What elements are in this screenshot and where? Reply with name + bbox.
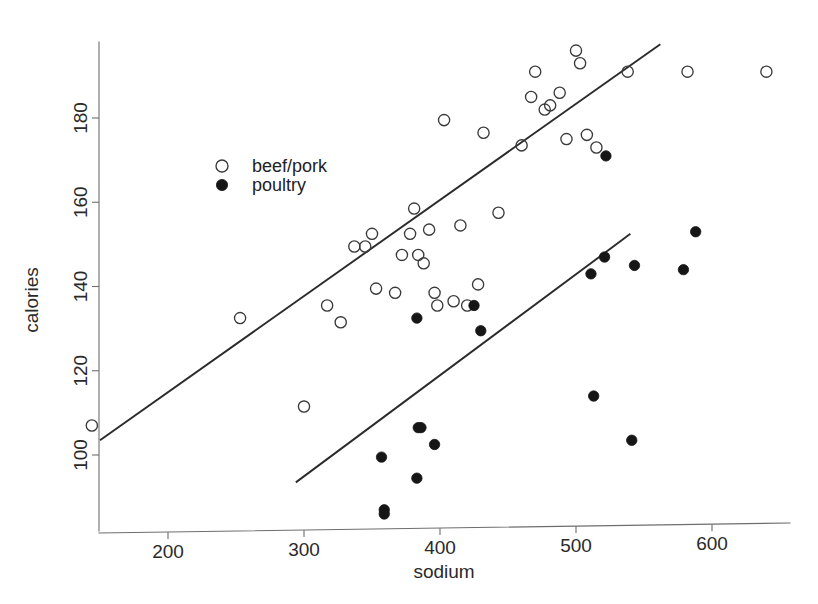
data-point-beef-pork [349, 241, 360, 252]
x-axis-line [99, 523, 790, 533]
data-point-beef-pork [448, 296, 459, 307]
y-axis-title: calories [21, 267, 42, 332]
data-points [86, 45, 772, 519]
x-tick-label: 600 [696, 533, 728, 554]
y-tick-label: 160 [70, 186, 91, 218]
data-point-beef-pork [298, 401, 309, 412]
data-point-poultry [469, 300, 479, 310]
data-point-beef-pork [390, 287, 401, 298]
x-axis-title: sodium [413, 561, 474, 582]
data-point-beef-pork [404, 228, 415, 239]
data-point-beef-pork [370, 283, 381, 294]
data-point-beef-pork [86, 420, 97, 431]
data-point-beef-pork [574, 58, 585, 69]
data-point-beef-pork [432, 300, 443, 311]
data-point-beef-pork [561, 133, 572, 144]
y-tick-label: 180 [70, 102, 91, 134]
legend-marker-beef-pork [216, 160, 228, 172]
data-point-poultry [599, 252, 609, 262]
data-point-poultry [429, 439, 439, 449]
data-point-beef-pork [478, 127, 489, 138]
data-point-poultry [376, 452, 386, 462]
data-point-beef-pork [581, 129, 592, 140]
data-point-beef-pork [360, 241, 371, 252]
x-tick-label: 200 [152, 541, 184, 562]
data-point-beef-pork [682, 66, 693, 77]
regression-lines [100, 44, 660, 482]
y-tick-label: 100 [70, 439, 91, 471]
data-point-beef-pork [396, 249, 407, 260]
data-point-poultry [379, 509, 389, 519]
legend-label: beef/pork [252, 156, 328, 176]
data-point-beef-pork [418, 258, 429, 269]
data-point-beef-pork [429, 287, 440, 298]
data-point-beef-pork [530, 66, 541, 77]
data-point-poultry [678, 264, 688, 274]
legend: beef/porkpoultry [216, 156, 328, 195]
x-tick-label: 500 [560, 535, 592, 556]
data-point-beef-pork [366, 228, 377, 239]
scatter-plot-figure: 100120140160180 200300400500600 beef/por… [0, 0, 818, 604]
y-tick-label: 140 [70, 271, 91, 303]
data-point-beef-pork [455, 220, 466, 231]
data-point-beef-pork [493, 207, 504, 218]
data-point-beef-pork [472, 279, 483, 290]
data-point-poultry [412, 313, 422, 323]
data-point-beef-pork [570, 45, 581, 56]
data-point-beef-pork [234, 312, 245, 323]
data-point-poultry [627, 435, 637, 445]
data-point-beef-pork [322, 300, 333, 311]
y-axis-ticks: 100120140160180 [70, 102, 100, 471]
x-tick-label: 400 [424, 537, 456, 558]
data-point-beef-pork [438, 115, 449, 126]
data-point-beef-pork [424, 224, 435, 235]
x-tick-label: 300 [288, 539, 320, 560]
data-point-beef-pork [335, 317, 346, 328]
data-point-beef-pork [413, 249, 424, 260]
data-point-beef-pork [591, 142, 602, 153]
data-point-beef-pork [409, 203, 420, 214]
data-point-beef-pork [761, 66, 772, 77]
regression-line [296, 234, 631, 483]
data-point-poultry [412, 473, 422, 483]
regression-line [100, 44, 660, 440]
data-point-poultry [690, 227, 700, 237]
data-point-beef-pork [554, 87, 565, 98]
data-point-poultry [588, 391, 598, 401]
x-axis-ticks: 200300400500600 [152, 524, 728, 562]
data-point-beef-pork [526, 91, 537, 102]
data-point-poultry [586, 269, 596, 279]
data-point-poultry [629, 260, 639, 270]
data-point-poultry [416, 422, 426, 432]
chart-canvas: 100120140160180 200300400500600 beef/por… [0, 0, 818, 604]
data-point-poultry [601, 151, 611, 161]
data-point-poultry [476, 326, 486, 336]
legend-marker-poultry [216, 179, 227, 190]
legend-label: poultry [252, 175, 306, 195]
axes [99, 42, 790, 533]
y-tick-label: 120 [70, 355, 91, 387]
